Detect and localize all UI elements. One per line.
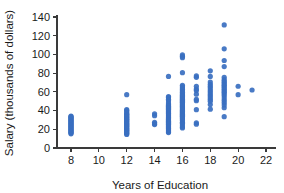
data-point bbox=[222, 22, 227, 27]
data-point bbox=[249, 87, 254, 92]
x-tick-label: 12 bbox=[121, 154, 133, 166]
x-axis-title: Years of Education bbox=[112, 179, 208, 191]
y-tick-label: 40 bbox=[38, 104, 50, 116]
data-point bbox=[208, 107, 213, 112]
y-tick-label: 60 bbox=[38, 86, 50, 98]
data-point bbox=[222, 75, 227, 80]
x-tick-label: 22 bbox=[260, 154, 272, 166]
data-point bbox=[180, 52, 185, 57]
data-point bbox=[222, 46, 227, 51]
x-tick-label: 18 bbox=[204, 154, 216, 166]
y-tick-label: 0 bbox=[44, 142, 50, 154]
data-point bbox=[194, 84, 199, 89]
y-axis-title: Salary (thousands of dollars) bbox=[3, 10, 15, 157]
data-point bbox=[194, 97, 199, 102]
y-tick-label: 120 bbox=[32, 30, 50, 42]
data-point bbox=[124, 107, 129, 112]
data-point bbox=[208, 79, 213, 84]
y-tick-label: 140 bbox=[32, 11, 50, 23]
x-tick-label: 10 bbox=[93, 154, 105, 166]
y-axis-tick-labels: 020406080100120140 bbox=[32, 11, 50, 154]
y-tick-label: 20 bbox=[38, 123, 50, 135]
data-point bbox=[208, 68, 213, 73]
data-point bbox=[194, 120, 199, 125]
tick-marks bbox=[53, 17, 266, 152]
data-point bbox=[236, 92, 241, 97]
data-point bbox=[68, 113, 73, 118]
y-tick-label: 100 bbox=[32, 48, 50, 60]
data-point bbox=[124, 92, 129, 97]
data-point bbox=[166, 94, 171, 99]
x-tick-label: 16 bbox=[176, 154, 188, 166]
y-tick-label: 80 bbox=[38, 67, 50, 79]
x-tick-label: 14 bbox=[148, 154, 160, 166]
data-point bbox=[152, 120, 157, 125]
data-point bbox=[194, 107, 199, 112]
data-point bbox=[236, 84, 241, 89]
data-point bbox=[222, 114, 227, 119]
data-point bbox=[208, 74, 213, 79]
data-point bbox=[222, 64, 227, 69]
x-axis-tick-labels: 810121416182022 bbox=[68, 154, 272, 166]
scatter-plot-figure: 020406080100120140 810121416182022 Years… bbox=[0, 0, 284, 193]
plot-canvas: 020406080100120140 810121416182022 Years… bbox=[0, 0, 284, 193]
data-point bbox=[180, 70, 185, 75]
x-tick-label: 20 bbox=[232, 154, 244, 166]
data-point bbox=[180, 83, 185, 88]
data-point bbox=[152, 111, 157, 116]
data-point bbox=[166, 74, 171, 79]
data-point bbox=[194, 73, 199, 78]
data-point bbox=[222, 58, 227, 63]
x-tick-label: 8 bbox=[68, 154, 74, 166]
data-points bbox=[68, 22, 254, 137]
